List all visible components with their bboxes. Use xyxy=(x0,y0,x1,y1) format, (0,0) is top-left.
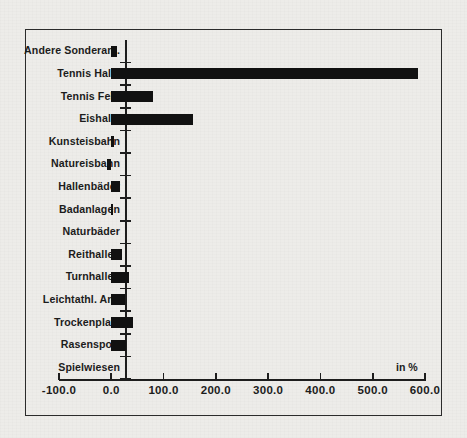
category-axis-tick xyxy=(120,197,131,199)
bar xyxy=(111,114,193,125)
category-axis-label: Eishalle xyxy=(2,112,120,124)
x-axis-tick xyxy=(215,373,217,380)
category-axis-tick xyxy=(120,130,131,132)
category-label-row: Rasensport xyxy=(0,338,120,351)
x-axis-tick-label: 600.0 xyxy=(390,384,460,396)
category-label-row: Hallenbäder xyxy=(0,180,120,193)
bar xyxy=(111,68,417,79)
bar xyxy=(111,46,117,57)
category-axis-tick xyxy=(120,62,131,64)
bar xyxy=(111,317,132,328)
bar xyxy=(111,272,128,283)
category-label-row: Naturbäder xyxy=(0,225,120,238)
x-axis-tick xyxy=(58,373,60,380)
x-axis-tick xyxy=(424,373,426,380)
bar xyxy=(111,91,153,102)
category-axis-label: Natureisbahn xyxy=(2,157,120,169)
bar xyxy=(111,294,125,305)
category-axis-tick xyxy=(120,356,131,358)
category-label-row: Reithallen xyxy=(0,248,120,261)
category-axis-tick xyxy=(120,265,131,267)
category-axis-tick xyxy=(120,175,131,177)
category-label-row: Tennis Feld xyxy=(0,90,120,103)
bar xyxy=(107,159,112,170)
category-axis-label: Badanlagen xyxy=(2,203,120,215)
bar xyxy=(111,340,126,351)
x-axis-tick xyxy=(320,373,322,380)
category-label-row: Eishalle xyxy=(0,112,120,125)
category-axis-label: Rasensport xyxy=(2,338,120,350)
x-axis-tick xyxy=(163,373,165,380)
category-label-row: Turnhallen xyxy=(0,270,120,283)
category-label-row: Andere Sonderanl. xyxy=(0,44,120,57)
category-axis-tick xyxy=(120,288,131,290)
category-axis-label: Tennis Halle xyxy=(2,67,120,79)
x-axis-tick xyxy=(372,373,374,380)
category-label-row: Badanlagen xyxy=(0,203,120,216)
category-axis-label: Kunsteisbahn xyxy=(2,135,120,147)
category-axis-label: Reithallen xyxy=(2,248,120,260)
category-axis-label: Tennis Feld xyxy=(2,90,120,102)
category-axis-tick xyxy=(120,220,131,222)
category-axis-label: Trockenplatz xyxy=(2,316,120,328)
category-axis-label: Spielwiesen xyxy=(2,361,120,373)
x-axis-tick xyxy=(110,373,112,380)
category-axis-tick xyxy=(120,333,131,335)
x-axis-tick xyxy=(267,373,269,380)
category-axis-tick xyxy=(120,84,131,86)
category-label-row: Natureisbahn xyxy=(0,157,120,170)
category-label-row: Leichtathl. Anl. xyxy=(0,293,120,306)
category-axis-label: Leichtathl. Anl. xyxy=(2,293,120,305)
category-axis-tick xyxy=(120,378,131,380)
category-axis-label: Hallenbäder xyxy=(2,180,120,192)
category-axis-tick xyxy=(120,310,131,312)
category-axis-tick xyxy=(120,107,131,109)
category-axis-label: Turnhallen xyxy=(2,270,120,282)
bar xyxy=(111,136,114,147)
category-axis-tick xyxy=(120,243,131,245)
category-axis-label: Andere Sonderanl. xyxy=(2,44,120,56)
category-label-row: Spielwiesen xyxy=(0,361,120,374)
category-axis-tick xyxy=(120,152,131,154)
category-label-row: Kunsteisbahn xyxy=(0,135,120,148)
category-label-row: Trockenplatz xyxy=(0,316,120,329)
bar-chart-plot-area: in % -100.00.0100.0200.0300.0400.0500.06… xyxy=(0,0,467,438)
bar xyxy=(111,204,113,215)
unit-label: in % xyxy=(396,361,418,373)
category-axis-label: Naturbäder xyxy=(2,225,120,237)
category-label-row: Tennis Halle xyxy=(0,67,120,80)
bar xyxy=(111,181,119,192)
bar xyxy=(111,249,121,260)
